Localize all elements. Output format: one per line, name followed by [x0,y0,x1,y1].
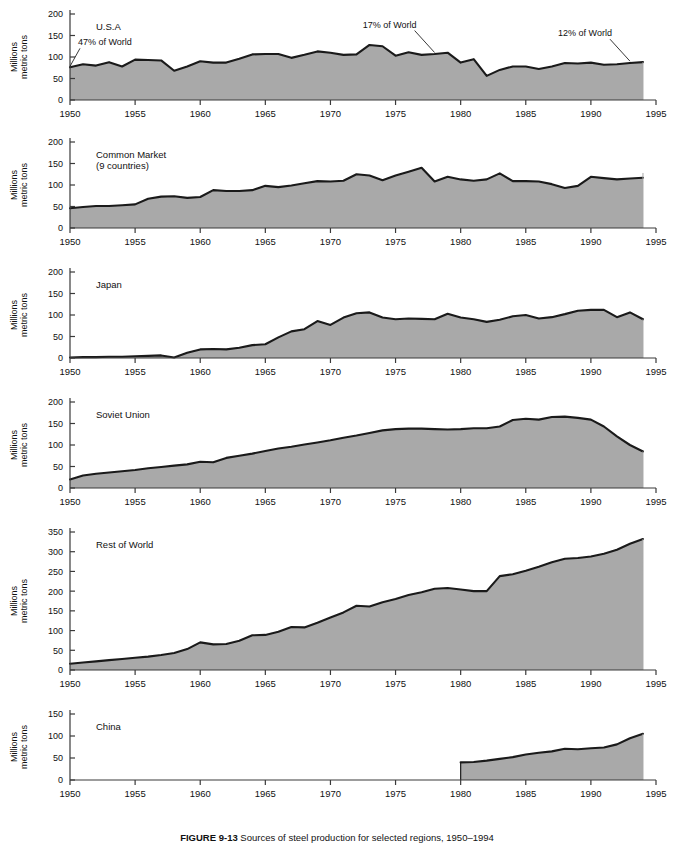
x-tick-label: 1985 [515,236,536,247]
y-tick-label: 100 [48,626,63,636]
x-tick-label: 1975 [385,108,406,119]
chart-svg-china: 0501001501950195519601965197019751980198… [0,700,674,844]
x-tick-label: 1995 [645,366,666,377]
y-axis-title: Millions [9,732,19,763]
x-tick-label: 1985 [515,678,536,689]
x-tick-label: 1980 [450,788,471,799]
x-tick-label: 1960 [190,678,211,689]
x-tick-label: 1980 [450,496,471,507]
x-tick-label: 1970 [320,788,341,799]
y-tick-label: 0 [58,665,63,675]
x-tick-label: 1995 [645,496,666,507]
x-tick-label: 1980 [450,108,471,119]
x-tick-label: 1955 [125,366,146,377]
figure-caption-text: Sources of steel production for selected… [240,832,494,843]
y-axis-title: Millions [9,300,19,331]
x-tick-label: 1980 [450,366,471,377]
y-tick-label: 100 [48,440,63,450]
x-tick-label: 1965 [255,496,276,507]
x-tick-label: 1960 [190,496,211,507]
x-tick-label: 1955 [125,236,146,247]
x-tick-label: 1970 [320,366,341,377]
y-axis-title: metric tons [19,578,29,623]
y-axis-title: Millions [9,430,19,461]
y-axis-title: metric tons [19,34,29,79]
x-tick-label: 1950 [59,366,80,377]
x-tick-label: 1965 [255,108,276,119]
y-tick-label: 200 [48,397,63,407]
x-tick-label: 1960 [190,366,211,377]
chart-svg-soviet-union: 0501001502001950195519601965197019751980… [0,388,674,518]
series-title: Rest of World [96,539,153,550]
y-axis-title: metric tons [19,724,29,769]
y-axis-title: Millions [9,42,19,73]
y-tick-label: 0 [58,353,63,363]
y-axis-title: metric tons [19,422,29,467]
annotation-label: 17% of World [363,20,417,30]
x-tick-label: 1950 [59,108,80,119]
y-tick-label: 150 [48,419,63,429]
series-title: China [96,721,122,732]
series-subtitle: (9 countries) [96,160,149,171]
y-tick-label: 150 [48,606,63,616]
y-tick-label: 200 [48,137,63,147]
x-tick-label: 1965 [255,366,276,377]
chart-panel-china: 0501001501950195519601965197019751980198… [0,700,674,844]
x-tick-label: 1960 [190,236,211,247]
x-tick-label: 1970 [320,678,341,689]
y-tick-label: 100 [48,310,63,320]
y-tick-label: 350 [48,527,63,537]
y-axis-title: Millions [9,170,19,201]
area-fill [70,539,643,670]
x-tick-label: 1990 [580,366,601,377]
x-tick-label: 1950 [59,496,80,507]
x-tick-label: 1955 [125,108,146,119]
chart-svg-u-s-a: 0501001502001950195519601965197019751980… [0,0,674,128]
series-title: U.S.A [96,21,121,32]
series-title: Japan [96,279,122,290]
figure-caption: FIGURE 9-13 Sources of steel production … [0,832,674,843]
chart-panel-soviet-union: 0501001502001950195519601965197019751980… [0,388,674,518]
y-tick-label: 100 [48,731,63,741]
chart-panel-rest-of-world: 0501001502002503003501950195519601965197… [0,518,674,700]
x-tick-label: 1990 [580,678,601,689]
annotation-label: 47% of World [78,37,132,47]
y-tick-label: 0 [58,483,63,493]
annotation-leader-line [415,31,435,53]
series-title: Soviet Union [96,409,150,420]
x-tick-label: 1975 [385,366,406,377]
y-tick-label: 150 [48,289,63,299]
x-tick-label: 1985 [515,108,536,119]
y-tick-label: 50 [53,332,63,342]
x-tick-label: 1950 [59,678,80,689]
chart-panel-usa: 0501001502001950195519601965197019751980… [0,0,674,128]
x-tick-label: 1990 [580,236,601,247]
x-tick-label: 1985 [515,366,536,377]
y-tick-label: 300 [48,547,63,557]
x-tick-label: 1985 [515,788,536,799]
y-tick-label: 0 [58,95,63,105]
y-tick-label: 50 [53,462,63,472]
y-tick-label: 200 [48,267,63,277]
y-tick-label: 50 [53,753,63,763]
x-tick-label: 1955 [125,788,146,799]
figure-container: 0501001502001950195519601965197019751980… [0,0,674,844]
y-tick-label: 150 [48,709,63,719]
y-axis-title: Millions [9,586,19,617]
series-title: Common Market [96,149,167,160]
x-tick-label: 1960 [190,788,211,799]
y-tick-label: 200 [48,9,63,19]
x-tick-label: 1960 [190,108,211,119]
x-tick-label: 1975 [385,678,406,689]
annotation-leader-line [610,39,630,61]
x-tick-label: 1990 [580,108,601,119]
y-tick-label: 50 [53,74,63,84]
y-tick-label: 150 [48,31,63,41]
x-tick-label: 1965 [255,788,276,799]
chart-svg-common-market: 0501001502001950195519601965197019751980… [0,128,674,258]
x-tick-label: 1980 [450,236,471,247]
x-tick-label: 1995 [645,788,666,799]
y-tick-label: 200 [48,587,63,597]
y-axis-title: metric tons [19,292,29,337]
chart-panel-common-market: 0501001502001950195519601965197019751980… [0,128,674,258]
